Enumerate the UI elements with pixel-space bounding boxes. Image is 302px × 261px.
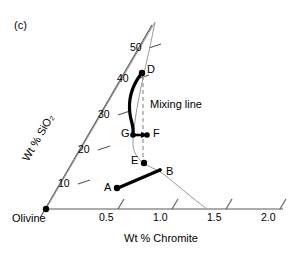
origin-vertex-label: Olivine [12, 213, 46, 224]
point-label-a: A [104, 182, 111, 193]
point-marker-d [139, 70, 145, 76]
y-tick-label-3: 40 [117, 73, 129, 84]
x-tick-label-3: 2.0 [261, 212, 276, 223]
panel-label: (c) [14, 20, 27, 31]
y-tick-label-4: 50 [130, 42, 142, 53]
x-tick-label-0: 0.5 [99, 212, 114, 223]
x-tick-label-1: 1.0 [153, 212, 168, 223]
point-marker-a [114, 185, 120, 191]
y-tick-label-2: 30 [98, 109, 110, 120]
data-point-markers [43, 70, 162, 212]
x-axis-title: Wt % Chromite [124, 233, 198, 244]
trend-line-a-b [118, 170, 160, 188]
x-tick-label-2: 1.5 [207, 212, 222, 223]
point-label-g: G [121, 128, 130, 139]
cotectic-curve [133, 22, 207, 209]
y-tick-label-0: 10 [58, 178, 70, 189]
point-marker-e [141, 160, 147, 166]
point-label-e: E [131, 155, 138, 166]
mixing-line-label: Mixing line [150, 99, 202, 110]
point-label-d: D [147, 64, 155, 75]
point-marker-g [130, 132, 136, 138]
point-label-f: F [153, 128, 160, 139]
x-axis-ticks [118, 199, 286, 209]
y-tick-label-1: 20 [78, 144, 90, 155]
point-marker-b [158, 168, 162, 172]
trend-curve-d-g [129, 74, 141, 134]
figure-panel-c: (c) 0.5 1.0 1.5 2.0 Wt % Chromite Olivin… [0, 0, 302, 261]
point-label-b: B [166, 166, 173, 177]
point-marker-f [144, 132, 150, 138]
